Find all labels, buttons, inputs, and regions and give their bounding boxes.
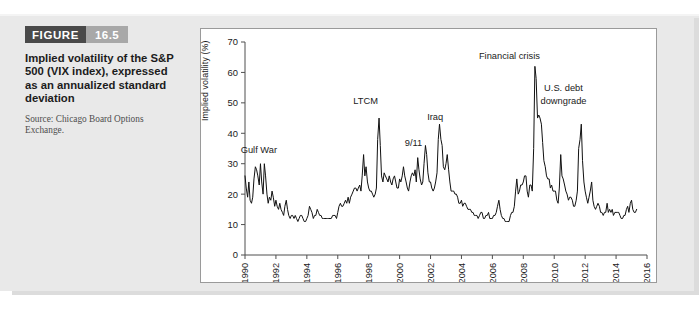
figure-page: FIGURE 16.5 Implied volatility of the S&… — [0, 0, 699, 318]
svg-text:60: 60 — [228, 67, 238, 78]
figure-label: FIGURE — [25, 26, 86, 43]
figure-header: FIGURE 16.5 — [25, 26, 172, 43]
svg-text:2002: 2002 — [426, 263, 436, 282]
svg-text:0: 0 — [233, 249, 238, 260]
svg-text:20: 20 — [228, 189, 238, 200]
figure-source-text: Source: Chicago Board Options Exchange. — [25, 114, 177, 136]
svg-text:1992: 1992 — [271, 263, 281, 282]
svg-text:1994: 1994 — [302, 263, 312, 282]
svg-text:2016: 2016 — [642, 263, 652, 282]
svg-text:2006: 2006 — [488, 263, 498, 282]
svg-text:downgrade: downgrade — [540, 96, 586, 106]
figure-number: 16.5 — [86, 26, 128, 43]
svg-text:Gulf War: Gulf War — [241, 145, 277, 155]
figure-caption-text: Implied volatility of the S&P 500 (VIX i… — [25, 52, 180, 106]
svg-text:1998: 1998 — [364, 263, 374, 282]
svg-text:40: 40 — [228, 128, 238, 139]
svg-text:30: 30 — [228, 158, 238, 169]
panel-top-rule — [0, 14, 699, 16]
svg-text:9/11: 9/11 — [405, 138, 422, 148]
svg-text:U.S. debt: U.S. debt — [544, 83, 583, 93]
panel-right-shadow — [694, 18, 699, 295]
panel-bottom-shadow — [12, 291, 699, 295]
svg-text:70: 70 — [228, 36, 238, 47]
svg-text:2008: 2008 — [519, 263, 529, 282]
chart-container: Implied volatility (%) 01020304050607019… — [200, 28, 657, 283]
svg-text:1996: 1996 — [333, 263, 343, 282]
chart-inner: Implied volatility (%) 01020304050607019… — [201, 29, 656, 282]
svg-text:LTCM: LTCM — [353, 96, 378, 106]
svg-text:Financial crisis: Financial crisis — [479, 51, 540, 61]
vix-line-chart: 0102030405060701990199219941996199820002… — [201, 29, 656, 282]
svg-text:50: 50 — [228, 97, 238, 108]
svg-text:2000: 2000 — [395, 263, 405, 282]
svg-text:Iraq: Iraq — [427, 112, 443, 122]
figure-caption-block: FIGURE 16.5 Implied volatility of the S&… — [25, 26, 185, 136]
svg-text:2010: 2010 — [550, 263, 560, 282]
svg-text:1990: 1990 — [240, 263, 250, 282]
svg-text:2004: 2004 — [457, 263, 467, 282]
svg-text:2014: 2014 — [611, 263, 621, 282]
svg-text:10: 10 — [228, 219, 238, 230]
svg-text:2012: 2012 — [580, 263, 590, 282]
